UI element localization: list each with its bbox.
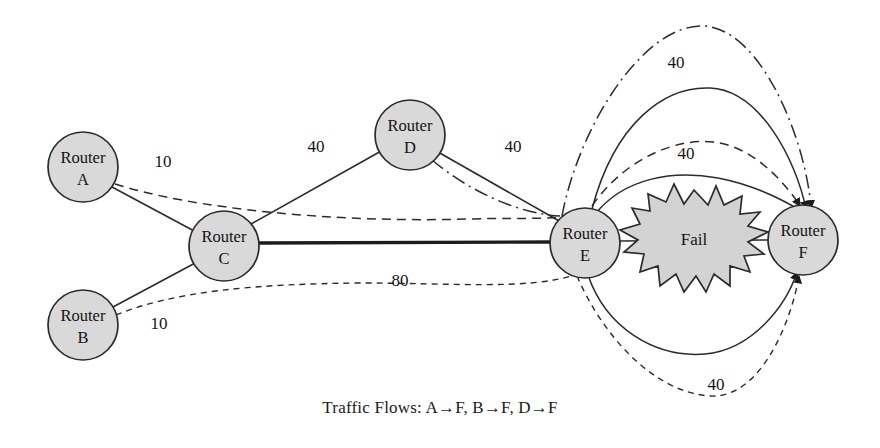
router-node-b[interactable]: Router B — [48, 290, 118, 360]
router-c-circle[interactable] — [189, 211, 259, 281]
router-e-label-line1: Router — [563, 224, 608, 243]
router-b-label-line2: B — [77, 328, 88, 347]
fail-label: Fail — [681, 230, 708, 249]
router-node-a[interactable]: Router A — [48, 132, 118, 202]
edge-label-d-e: 40 — [505, 137, 522, 156]
router-f-circle[interactable] — [768, 205, 838, 275]
flow-label-b-to-f-reroute: 40 — [708, 375, 725, 394]
flow-path-b-to-f-reroute — [577, 276, 799, 396]
router-d-label-line1: Router — [388, 116, 433, 135]
router-b-circle[interactable] — [48, 290, 118, 360]
flow-label-b-to-f: 10 — [151, 314, 168, 333]
router-e-circle[interactable] — [550, 208, 620, 278]
reroute-arc-solid-upper — [592, 88, 806, 209]
flow-label-a-to-f-reroute: 40 — [678, 144, 695, 163]
router-a-label-line2: A — [77, 170, 89, 189]
router-node-c[interactable]: Router C — [189, 211, 259, 281]
figure-caption: Traffic Flows: A→F, B→F, D→F — [0, 398, 880, 418]
router-b-label-line1: Router — [61, 306, 106, 325]
router-c-label-line2: C — [218, 249, 229, 268]
router-node-d[interactable]: Router D — [375, 100, 445, 170]
flow-label-a-to-f: 10 — [155, 152, 172, 171]
router-a-circle[interactable] — [48, 132, 118, 202]
router-f-label-line2: F — [798, 243, 807, 262]
edge-label-c-e: 80 — [392, 271, 409, 290]
edge-label-c-d: 40 — [308, 137, 325, 156]
flow-path-b-to-f — [116, 275, 574, 315]
diagram-canvas: Fail Router A Router B Router C Router D… — [0, 0, 880, 448]
flow-label-d-to-f-top: 40 — [668, 53, 685, 72]
flow-path-a-to-f — [115, 184, 588, 220]
router-a-label-line1: Router — [61, 148, 106, 167]
router-f-label-line1: Router — [781, 221, 826, 240]
link-c-e — [259, 242, 550, 243]
fail-marker: Fail — [620, 184, 768, 292]
link-b-c — [113, 262, 197, 307]
router-c-label-line1: Router — [202, 227, 247, 246]
router-node-f[interactable]: Router F — [768, 205, 838, 275]
router-d-circle[interactable] — [375, 100, 445, 170]
router-d-label-line2: D — [404, 138, 416, 157]
flow-path-d-to-f — [432, 160, 560, 216]
flow-path-d-to-f-reroute — [562, 26, 811, 216]
router-e-label-line2: E — [580, 246, 590, 265]
link-d-e — [438, 152, 561, 222]
reroute-arc-solid-bottom — [588, 272, 797, 354]
router-node-e[interactable]: Router E — [550, 208, 620, 278]
network-topology-diagram: Fail Router A Router B Router C Router D… — [0, 0, 880, 448]
link-a-c — [112, 187, 196, 232]
